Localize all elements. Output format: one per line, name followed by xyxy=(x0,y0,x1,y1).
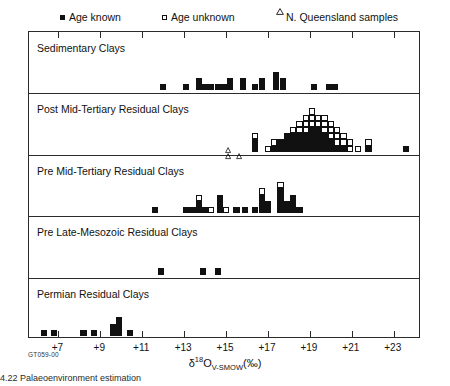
filled-square-icon xyxy=(60,15,65,20)
data-marker-filled xyxy=(217,195,223,201)
data-marker-filled xyxy=(240,78,246,84)
tick-bottom xyxy=(142,331,143,337)
data-marker-filled xyxy=(303,146,309,152)
data-marker-filled xyxy=(290,201,296,207)
data-marker-filled xyxy=(259,84,265,90)
data-marker-filled xyxy=(315,146,321,152)
tick-top xyxy=(226,32,227,38)
data-marker-filled xyxy=(252,207,258,213)
data-marker-filled xyxy=(41,330,47,336)
data-marker-filled xyxy=(152,207,158,213)
data-marker-filled xyxy=(252,84,258,90)
tick-bottom xyxy=(58,331,59,337)
data-marker-filled xyxy=(215,268,221,274)
data-marker-open xyxy=(334,133,340,139)
data-marker-filled xyxy=(116,324,122,330)
tick-label-0: +7 xyxy=(52,343,63,353)
data-marker-filled xyxy=(160,84,166,90)
data-marker-filled xyxy=(221,84,227,90)
data-marker-open xyxy=(271,139,277,145)
data-marker-open xyxy=(340,139,346,145)
row-label-3: Pre Late-Mesozoic Residual Clays xyxy=(37,227,197,238)
data-marker-filled xyxy=(252,146,258,152)
data-marker-filled xyxy=(215,84,221,90)
tick-top xyxy=(310,32,311,38)
data-marker-filled xyxy=(273,84,279,90)
tick-label-8: +23 xyxy=(384,343,401,353)
data-marker-open xyxy=(252,133,258,139)
data-marker-filled xyxy=(51,330,57,336)
plot-frame: Sedimentary ClaysPost Mid-Tertiary Resid… xyxy=(28,31,420,338)
data-marker-open xyxy=(290,127,296,133)
tick-bottom xyxy=(310,331,311,337)
data-marker-filled xyxy=(259,201,265,207)
row-label-4: Permian Residual Clays xyxy=(37,289,149,300)
data-marker-open xyxy=(208,207,214,213)
data-marker-filled xyxy=(403,146,409,152)
data-marker-open xyxy=(265,146,271,152)
legend-label: N. Queensland samples xyxy=(286,12,398,23)
data-marker-filled xyxy=(280,84,286,90)
row-label-0: Sedimentary Clays xyxy=(37,43,125,54)
axis-subscript: V-SMOW xyxy=(212,363,243,372)
row-divider xyxy=(29,93,419,94)
data-marker-open xyxy=(328,133,334,139)
data-marker-open xyxy=(347,146,353,152)
tick-bottom xyxy=(226,331,227,337)
data-marker-filled xyxy=(340,146,346,152)
data-marker-open xyxy=(355,146,361,152)
tick-top xyxy=(100,32,101,38)
row-divider xyxy=(29,155,419,156)
tick-top xyxy=(58,32,59,38)
tick-top xyxy=(268,32,269,38)
data-marker-filled xyxy=(290,146,296,152)
data-marker-open xyxy=(328,121,334,127)
data-marker-filled xyxy=(321,146,327,152)
data-marker-filled xyxy=(196,207,202,213)
data-marker-filled xyxy=(303,133,309,139)
data-marker-filled xyxy=(265,201,271,207)
legend-label: Age known xyxy=(69,12,121,23)
tick-label-3: +13 xyxy=(175,343,192,353)
data-marker-filled xyxy=(290,139,296,145)
data-marker-open xyxy=(303,121,309,127)
data-marker-filled xyxy=(290,133,296,139)
data-marker-filled xyxy=(284,201,290,207)
data-marker-filled xyxy=(91,330,97,336)
data-marker-filled xyxy=(242,207,248,213)
data-marker-filled xyxy=(200,268,206,274)
data-marker-filled xyxy=(240,84,246,90)
axis-superscript: 18 xyxy=(195,355,203,364)
tick-label-4: +15 xyxy=(217,343,234,353)
tick-bottom xyxy=(100,331,101,337)
tick-label-2: +11 xyxy=(133,343,149,353)
data-marker-filled xyxy=(277,201,283,207)
data-marker-open xyxy=(315,115,321,121)
data-marker-filled xyxy=(309,133,315,139)
data-marker-filled xyxy=(328,146,334,152)
tick-label-1: +9 xyxy=(94,343,105,353)
data-marker-filled xyxy=(303,139,309,145)
legend-item-0: Age known xyxy=(60,12,121,23)
data-marker-filled xyxy=(183,207,189,213)
data-marker-open xyxy=(321,127,327,133)
data-marker-open xyxy=(259,188,265,194)
tick-top xyxy=(394,32,395,38)
data-marker-open xyxy=(196,195,202,201)
data-marker-open xyxy=(277,182,283,188)
data-marker-filled xyxy=(217,201,223,207)
data-marker-filled xyxy=(365,146,371,152)
data-marker-filled xyxy=(227,78,233,84)
data-marker-filled xyxy=(217,207,223,213)
data-marker-open xyxy=(365,139,371,145)
data-marker-filled xyxy=(284,146,290,152)
axis-unit: (‰) xyxy=(243,357,261,369)
data-marker-open xyxy=(309,121,315,127)
open-triangle-icon xyxy=(276,14,282,20)
data-marker-filled xyxy=(321,133,327,139)
figure-caption: 4.22 Palaeoenvironment estimation xyxy=(0,374,450,386)
open-square-icon xyxy=(162,15,167,20)
data-marker-filled xyxy=(311,84,317,90)
data-marker-filled xyxy=(265,207,271,213)
data-marker-filled xyxy=(277,146,283,152)
